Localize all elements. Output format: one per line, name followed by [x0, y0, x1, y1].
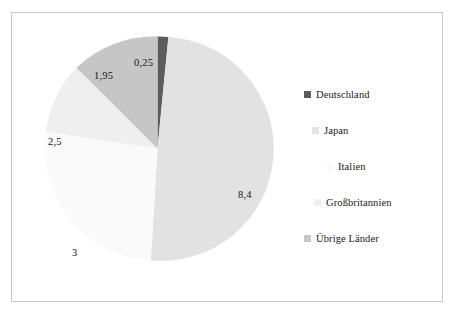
data-label-uebrige-laender: 1,95 — [94, 70, 113, 81]
legend-item-grossbritannien[interactable]: Großbritannien — [314, 184, 439, 220]
pie-slice-italien — [45, 132, 158, 260]
legend-label-italien: Italien — [338, 161, 366, 172]
legend-swatch-grossbritannien — [314, 199, 321, 206]
data-label-deutschland: 0,25 — [134, 57, 153, 68]
pie-slice-japan — [151, 37, 274, 261]
legend-swatch-uebrige-laender — [304, 235, 311, 242]
legend-swatch-deutschland — [304, 91, 311, 98]
data-label-italien: 3 — [72, 247, 77, 258]
legend-item-deutschland[interactable]: Deutschland — [304, 76, 439, 112]
legend-label-deutschland: Deutschland — [316, 89, 370, 100]
chart-frame: 0,25 1,95 2,5 3 8,4 Deutschland Japan It… — [11, 12, 443, 302]
pie-chart-graphic — [40, 31, 275, 266]
legend-label-uebrige-laender: Übrige Länder — [316, 233, 379, 244]
legend-item-japan[interactable]: Japan — [312, 112, 439, 148]
legend-swatch-italien — [326, 163, 333, 170]
legend-item-uebrige-laender[interactable]: Übrige Länder — [304, 220, 439, 256]
chart-legend: Deutschland Japan Italien Großbritannien… — [304, 76, 439, 256]
legend-label-japan: Japan — [324, 125, 348, 136]
data-label-grossbritannien: 2,5 — [48, 136, 62, 147]
data-label-japan: 8,4 — [238, 189, 252, 200]
legend-label-grossbritannien: Großbritannien — [326, 197, 392, 208]
legend-item-italien[interactable]: Italien — [326, 148, 439, 184]
pie-chart-plot-area: 0,25 1,95 2,5 3 8,4 Deutschland Japan It… — [12, 13, 444, 303]
legend-swatch-japan — [312, 127, 319, 134]
